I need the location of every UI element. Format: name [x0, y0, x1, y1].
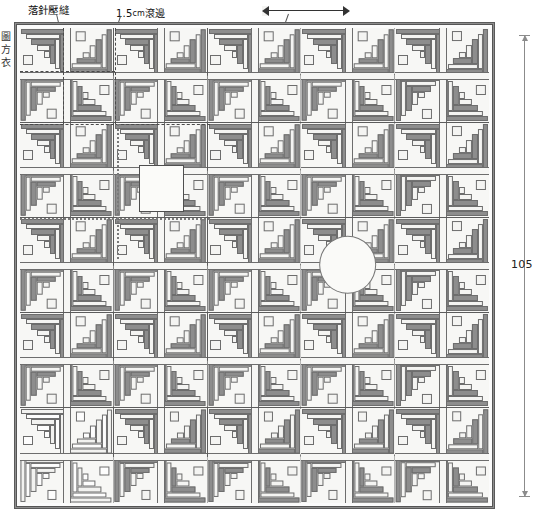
centre-patch [381, 275, 391, 284]
light-log [448, 396, 483, 401]
dark-log [284, 420, 290, 444]
quilt-block [20, 28, 114, 123]
circle-applique-motif [319, 236, 377, 294]
dark-log [483, 29, 488, 74]
dark-log [77, 153, 96, 159]
light-log [364, 433, 372, 439]
dark-log [107, 29, 112, 74]
light-log [177, 282, 183, 290]
dark-log [284, 229, 290, 253]
light-log [478, 414, 483, 449]
block-sashing-horizontal [114, 357, 207, 365]
dark-log [378, 39, 384, 63]
light-log [278, 425, 284, 438]
light-log [130, 187, 136, 200]
block-sashing-horizontal [20, 453, 113, 461]
light-log [364, 194, 377, 200]
block-sashing-horizontal [20, 72, 113, 80]
dark-log [443, 497, 488, 502]
light-log [218, 462, 248, 467]
centre-patch [117, 436, 127, 446]
log-cabin-quarter [114, 28, 160, 75]
light-log [177, 377, 183, 385]
centre-patch [210, 436, 220, 446]
centre-patch [287, 466, 297, 476]
dark-log [453, 105, 477, 111]
dark-log [77, 438, 96, 444]
dark-log [389, 409, 394, 454]
light-log [372, 425, 378, 438]
dark-log [237, 45, 243, 64]
light-log [448, 444, 478, 449]
dark-log [453, 390, 477, 396]
light-log [354, 64, 384, 69]
block-sashing-horizontal [301, 167, 394, 175]
dark-log [483, 219, 488, 264]
log-cabin-quarter [20, 265, 67, 311]
dark-log [255, 497, 300, 502]
dark-log [255, 211, 300, 216]
light-log [271, 282, 277, 290]
centre-patch [170, 316, 179, 326]
light-log [260, 396, 294, 401]
light-log [271, 99, 284, 105]
light-log [213, 462, 218, 496]
dark-log [190, 229, 196, 253]
log-cabin-quarter [395, 28, 442, 75]
quilt-block [208, 218, 302, 313]
light-log [138, 431, 144, 439]
light-log [72, 206, 106, 211]
log-cabin-quarter [20, 28, 66, 75]
light-log [278, 235, 284, 248]
dark-log [472, 229, 478, 253]
dark-log [331, 425, 337, 444]
dark-log [201, 29, 206, 74]
log-cabin-quarter [66, 409, 114, 455]
dark-log [443, 401, 488, 406]
dark-log [171, 438, 190, 444]
dark-log [388, 29, 393, 74]
light-log [431, 39, 436, 69]
dark-log [265, 105, 289, 111]
light-log [166, 492, 200, 497]
dark-log [331, 45, 337, 64]
light-log [91, 330, 97, 343]
light-log [102, 415, 107, 449]
log-cabin-quarter [160, 313, 207, 359]
light-log [138, 146, 144, 154]
light-log [166, 396, 200, 401]
label-side-vertical: 圖 方 衣 [0, 30, 12, 69]
light-log [72, 301, 106, 306]
log-cabin-quarter [20, 408, 66, 456]
light-log [138, 336, 144, 344]
dark-log [67, 401, 112, 406]
light-log [337, 39, 342, 69]
light-log [459, 433, 467, 439]
light-log [431, 324, 436, 354]
centre-patch [287, 85, 297, 94]
dark-log [284, 39, 290, 63]
light-log [383, 319, 388, 353]
dark-log [107, 219, 112, 264]
quilt-block [20, 313, 114, 408]
log-cabin-quarter [20, 218, 66, 265]
light-log [184, 425, 190, 438]
log-cabin-quarter [301, 75, 348, 121]
light-log [324, 187, 332, 193]
light-log [459, 377, 465, 385]
dark-log [483, 124, 488, 169]
label-binding: 1.5cm滾邊 [116, 5, 166, 20]
log-cabin-quarter [301, 123, 347, 170]
log-cabin-quarter [254, 313, 301, 359]
light-log [232, 241, 238, 249]
light-log [271, 337, 279, 343]
centre-patch [235, 489, 245, 499]
quilt-block [114, 218, 208, 313]
log-cabin-quarter [20, 313, 66, 360]
centre-patch [328, 299, 337, 309]
light-log [467, 45, 473, 58]
dark-log [425, 330, 431, 349]
centre-patch [117, 340, 127, 349]
light-log [243, 419, 248, 449]
light-log [177, 52, 185, 58]
